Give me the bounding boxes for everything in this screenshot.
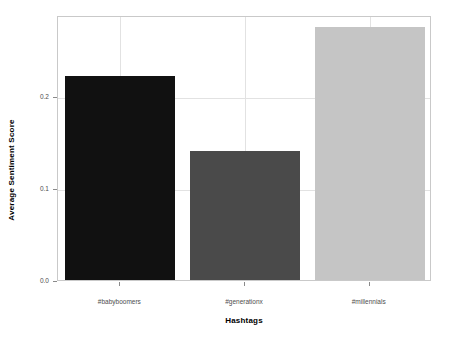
x-axis-title: Hashtags — [57, 316, 431, 325]
bar-millennials[interactable] — [315, 27, 425, 280]
x-tick-mark — [119, 282, 120, 286]
y-axis-title: Average Sentiment Score — [0, 0, 22, 340]
x-tick-mark — [369, 282, 370, 286]
x-tick-label: #generationx — [184, 298, 304, 305]
x-tick-mark — [244, 282, 245, 286]
x-tick-label: #millennials — [309, 298, 429, 305]
bar-babyboomers[interactable] — [65, 76, 175, 280]
bar-generationx[interactable] — [190, 151, 300, 280]
y-tick-label: 0.2 — [8, 93, 49, 100]
y-tick-label: 0.0 — [8, 277, 49, 284]
plot-panel — [57, 16, 431, 281]
plot-area — [58, 17, 430, 280]
y-tick-mark — [53, 281, 57, 282]
bar-chart-figure: Average Sentiment Score 0.00.10.2 #babyb… — [0, 0, 454, 340]
y-tick-label: 0.1 — [8, 185, 49, 192]
x-tick-label: #babyboomers — [59, 298, 179, 305]
